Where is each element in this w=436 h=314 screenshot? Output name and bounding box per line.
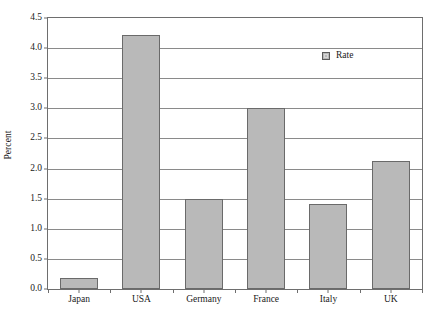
y-axis-title: Percent xyxy=(0,0,16,290)
bars-layer: JapanUSAGermanyFranceItalyUK xyxy=(48,18,422,289)
legend-square-icon xyxy=(322,52,330,60)
bar xyxy=(185,199,223,289)
bar-group: UK xyxy=(360,18,422,289)
y-tick-label: 3.0 xyxy=(30,104,42,114)
x-minor-tick-mark xyxy=(173,289,174,293)
y-tick-label: 1.5 xyxy=(30,194,42,204)
y-axis-title-label: Percent xyxy=(3,130,13,159)
bar-group: France xyxy=(235,18,297,289)
y-tick-label: 0.5 xyxy=(30,254,42,264)
x-category-label: UK xyxy=(384,294,398,304)
bar-group: Germany xyxy=(173,18,235,289)
x-minor-tick-mark xyxy=(422,289,423,293)
chart-legend: Rate xyxy=(322,51,353,61)
y-tick-label: 0.0 xyxy=(30,284,42,294)
y-tick-label: 2.5 xyxy=(30,134,42,144)
bar xyxy=(372,161,410,289)
x-category-label: France xyxy=(253,294,279,304)
y-tick-label: 2.0 xyxy=(30,164,42,174)
x-minor-tick-mark xyxy=(110,289,111,293)
plot-area: 0.00.51.01.52.02.53.03.54.04.5 JapanUSAG… xyxy=(47,17,423,290)
bar-group: Japan xyxy=(48,18,110,289)
x-tick-mark xyxy=(328,289,329,293)
x-minor-tick-mark xyxy=(360,289,361,293)
x-category-label: Italy xyxy=(320,294,337,304)
x-minor-tick-mark xyxy=(48,289,49,293)
bar-group: USA xyxy=(110,18,172,289)
y-tick-label: 1.0 xyxy=(30,224,42,234)
y-tick-label: 3.5 xyxy=(30,73,42,83)
x-tick-mark xyxy=(79,289,80,293)
x-category-label: USA xyxy=(132,294,151,304)
bar xyxy=(247,108,285,289)
bar-chart-figure: Percent 0.00.51.01.52.02.53.03.54.04.5 J… xyxy=(0,0,436,314)
x-tick-mark xyxy=(203,289,204,293)
x-minor-tick-mark xyxy=(297,289,298,293)
x-tick-mark xyxy=(390,289,391,293)
x-category-label: Germany xyxy=(186,294,221,304)
bar xyxy=(309,204,347,290)
legend-entry-label: Rate xyxy=(336,51,353,61)
x-tick-mark xyxy=(141,289,142,293)
y-tick-label: 4.5 xyxy=(30,13,42,23)
y-tick-label: 4.0 xyxy=(30,43,42,53)
x-category-label: Japan xyxy=(68,294,90,304)
x-minor-tick-mark xyxy=(235,289,236,293)
bar xyxy=(122,35,160,289)
bar xyxy=(60,278,98,289)
x-tick-mark xyxy=(266,289,267,293)
